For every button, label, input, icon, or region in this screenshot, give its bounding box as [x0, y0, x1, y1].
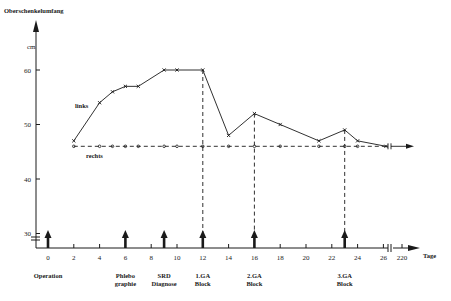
- x-tick-label: 20: [303, 254, 311, 262]
- x-tick-label: 2: [72, 254, 76, 262]
- up-arrow-icon: [161, 230, 168, 238]
- x-tick-label: 220: [397, 254, 408, 262]
- event-guides: [203, 70, 345, 234]
- y-tick-label: 60: [24, 67, 32, 75]
- x-axis-arrow-icon: [408, 245, 420, 251]
- x-ticks: 02468101214161820222426220: [46, 244, 408, 262]
- series-links: [72, 68, 414, 149]
- y-tick-label: 30: [24, 230, 32, 238]
- x-axis-unit: Tage: [423, 252, 436, 259]
- thigh-circumference-chart: Oberschenkelumfang cm 30405060 024681012…: [0, 0, 451, 301]
- x-tick-label: 12: [199, 254, 207, 262]
- x-tick-label: 10: [174, 254, 182, 262]
- up-arrow-icon: [45, 230, 52, 238]
- event-label: 3.GA: [337, 272, 352, 279]
- x-tick-label: 14: [225, 254, 233, 262]
- up-arrow-icon: [341, 230, 348, 238]
- up-arrow-icon: [251, 230, 258, 238]
- y-ticks: 30405060: [24, 67, 40, 239]
- x-axis: [36, 244, 420, 252]
- event-label: 2.GA: [247, 272, 262, 279]
- y-axis-arrow-icon: [33, 20, 39, 32]
- x-tick-label: 4: [98, 254, 102, 262]
- up-arrow-icon: [122, 230, 129, 238]
- x-tick-label: 18: [277, 254, 285, 262]
- y-tick-label: 50: [24, 121, 32, 129]
- series-label-rechts: rechts: [86, 152, 103, 159]
- event-label: Block: [246, 280, 262, 287]
- x-tick-label: 24: [354, 254, 362, 262]
- y-axis-title: Oberschenkelumfang: [4, 7, 64, 14]
- series-rechts: [73, 145, 387, 148]
- event-label: Operation: [34, 272, 63, 279]
- x-tick-label: 0: [46, 254, 50, 262]
- event-label: Block: [195, 280, 211, 287]
- event-label: Block: [337, 280, 353, 287]
- y-tick-label: 40: [24, 176, 32, 184]
- event-label: 1.GA: [195, 272, 210, 279]
- series-label-links: links: [75, 102, 89, 109]
- up-arrow-icon: [199, 230, 206, 238]
- event-label: Phlebo: [116, 272, 135, 279]
- event-label: SRD: [158, 272, 171, 279]
- event-label: graphie: [115, 280, 136, 287]
- event-marker: 3.GABlock: [337, 230, 353, 287]
- y-axis: [31, 20, 40, 248]
- x-tick-label: 22: [328, 254, 336, 262]
- x-tick-label: 8: [149, 254, 153, 262]
- x-tick-label: 16: [251, 254, 259, 262]
- x-tick-label: 26: [380, 254, 388, 262]
- event-label: Diagnose: [151, 280, 176, 287]
- y-axis-unit: cm: [27, 43, 36, 51]
- x-tick-label: 6: [124, 254, 128, 262]
